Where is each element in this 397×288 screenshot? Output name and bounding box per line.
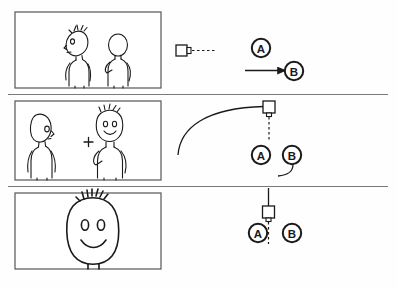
position-mark-b-row2: B <box>283 146 301 164</box>
row-3: A B <box>15 188 301 269</box>
action-curve-row2 <box>278 165 293 177</box>
svg-text:A: A <box>257 150 265 162</box>
storyboard-drawing: A B <box>0 0 397 288</box>
row-1: A B <box>15 12 303 88</box>
position-mark-a-row1: A <box>252 39 270 57</box>
svg-text:B: B <box>288 150 296 162</box>
svg-text:B: B <box>290 66 298 78</box>
panel-3-frame <box>15 193 161 269</box>
svg-text:B: B <box>288 228 296 240</box>
panel-1-frame <box>15 12 161 88</box>
position-mark-b-row3: B <box>283 224 301 242</box>
camera-icon-row3 <box>263 206 275 222</box>
position-mark-a-row3: A <box>249 224 267 242</box>
move-path-row2 <box>178 107 264 156</box>
staging-diagram-2: A B <box>178 101 301 176</box>
row-2: A B <box>15 101 301 180</box>
svg-text:A: A <box>257 43 265 55</box>
position-mark-b-row1: B <box>285 62 303 80</box>
staging-diagram-1: A B <box>176 39 303 80</box>
position-mark-a-row2: A <box>252 146 270 164</box>
staging-diagram-3: A B <box>249 188 301 244</box>
storyboard-sheet: A B <box>0 0 397 288</box>
camera-icon-row1 <box>176 45 191 56</box>
camera-icon-row2 <box>263 101 275 117</box>
svg-text:A: A <box>254 228 262 240</box>
